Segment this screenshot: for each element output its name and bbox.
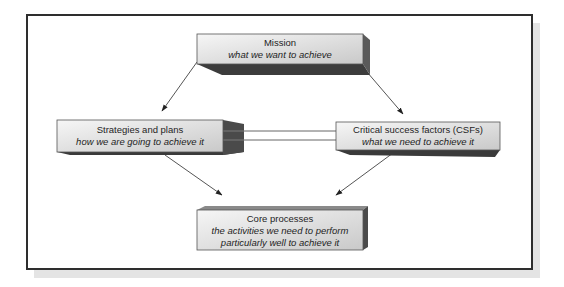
core-box-top-face xyxy=(197,206,368,210)
strategies-box-bottom-face xyxy=(57,152,244,155)
csfs-label: Critical success factors (CSFs) what we … xyxy=(336,124,500,148)
strategies-subtitle: how we are going to achieve it xyxy=(57,136,223,148)
core-label: Core processes the activities we need to… xyxy=(197,213,363,249)
arrow-mission-to-csfs xyxy=(367,72,403,114)
csfs-subtitle: what we need to achieve it xyxy=(336,136,500,148)
core-subtitle-line2: particularly well to achieve it xyxy=(197,237,363,249)
mission-label: Mission what we want to achieve xyxy=(197,37,363,61)
core-box-side-face xyxy=(363,206,368,250)
arrow-strategies-to-core xyxy=(165,155,222,195)
strategies-box-side-face xyxy=(223,120,244,155)
csfs-box-bottom-face xyxy=(336,150,500,157)
mission-title: Mission xyxy=(197,37,363,49)
arrow-csfs-to-core xyxy=(336,153,393,195)
arrow-mission-to-strategies xyxy=(162,62,197,111)
mission-subtitle: what we want to achieve xyxy=(197,49,363,61)
mission-box-bottom-face xyxy=(197,64,370,75)
core-subtitle-line1: the activities we need to perform xyxy=(197,225,363,237)
strategies-title: Strategies and plans xyxy=(57,124,223,136)
core-title: Core processes xyxy=(197,213,363,225)
strategies-label: Strategies and plans how we are going to… xyxy=(57,124,223,148)
csfs-title: Critical success factors (CSFs) xyxy=(336,124,500,136)
